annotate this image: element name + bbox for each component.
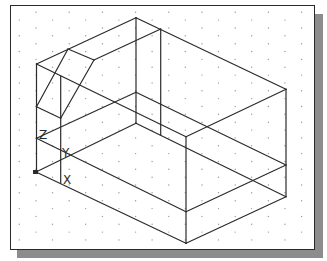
grid-dot [284, 82, 285, 83]
grid-dot [185, 82, 186, 83]
grid-dot [85, 129, 86, 130]
grid-dot [19, 82, 20, 83]
grid-dot [301, 12, 302, 13]
grid-dot [268, 59, 269, 60]
grid-dot [168, 184, 169, 185]
grid-dot [235, 106, 236, 107]
grid-dot [52, 19, 53, 20]
grid-dot [69, 12, 70, 13]
grid-dot [301, 27, 302, 28]
grid-dot [218, 67, 219, 68]
wireframe-edge [37, 138, 187, 211]
grid-dot [69, 137, 70, 138]
grid-dot [235, 27, 236, 28]
grid-dot [201, 12, 202, 13]
grid-dot [301, 153, 302, 154]
grid-dot [85, 145, 86, 146]
grid-dot [118, 208, 119, 209]
grid-dot [135, 12, 136, 13]
grid-dot [19, 35, 20, 36]
grid-dot [268, 153, 269, 154]
grid-dot [135, 216, 136, 217]
grid-dot [218, 161, 219, 162]
grid-dot [118, 114, 119, 115]
grid-dot [284, 192, 285, 193]
wireframe-edge [136, 92, 286, 165]
grid-dot [135, 169, 136, 170]
grid-dot [85, 82, 86, 83]
grid-dot [35, 184, 36, 185]
grid-dot [19, 192, 20, 193]
grid-dot [301, 216, 302, 217]
grid-dot [201, 43, 202, 44]
grid-dot [185, 98, 186, 99]
grid-dot [218, 177, 219, 178]
grid-dot [35, 231, 36, 232]
grid-dot [52, 67, 53, 68]
grid-dot [168, 27, 169, 28]
grid-dot [235, 137, 236, 138]
grid-dot [201, 106, 202, 107]
wireframe-edge [186, 89, 286, 136]
grid-dot [118, 239, 119, 240]
grid-dot [218, 192, 219, 193]
grid-dot [284, 208, 285, 209]
grid-dot [301, 231, 302, 232]
grid-dot [251, 161, 252, 162]
grid-dot [102, 184, 103, 185]
grid-dot [19, 224, 20, 225]
wireframe-edge [186, 197, 286, 244]
grid-dot [135, 231, 136, 232]
grid-dot [301, 106, 302, 107]
grid-dot [118, 19, 119, 20]
grid-dot [235, 231, 236, 232]
grid-dot [284, 224, 285, 225]
wireframe-edge [36, 172, 186, 243]
grid-dot [85, 192, 86, 193]
grid-dot [218, 82, 219, 83]
grid-dot [52, 239, 53, 240]
grid-dot [19, 114, 20, 115]
grid-dot [284, 177, 285, 178]
grid-dot [201, 153, 202, 154]
grid-dot [69, 169, 70, 170]
grid-dot [85, 35, 86, 36]
grid-dot [185, 114, 186, 115]
grid-dot [251, 239, 252, 240]
grid-dot [151, 208, 152, 209]
x-axis-label: X [63, 173, 71, 187]
grid-dot [284, 239, 285, 240]
grid-dot [251, 192, 252, 193]
grid-dot [102, 231, 103, 232]
grid-dot [118, 161, 119, 162]
grid-dot [251, 177, 252, 178]
grid-dot [201, 74, 202, 75]
grid-dot [35, 200, 36, 201]
wireframe-edge [37, 107, 61, 119]
grid-dot [19, 51, 20, 52]
grid-dot [102, 12, 103, 13]
grid-dot [301, 200, 302, 201]
grid-dot [151, 98, 152, 99]
grid-dot [268, 74, 269, 75]
grid-dot [168, 200, 169, 201]
grid-dot [19, 19, 20, 20]
grid-dot [201, 59, 202, 60]
grid-dot [251, 224, 252, 225]
grid-dot [19, 145, 20, 146]
grid-dot [85, 224, 86, 225]
grid-dot [301, 137, 302, 138]
grid-dot [235, 200, 236, 201]
grid-dot [168, 43, 169, 44]
grid-dot [268, 122, 269, 123]
grid-dot [151, 161, 152, 162]
grid-dot [151, 192, 152, 193]
grid-dot [52, 208, 53, 209]
grid-dot [251, 19, 252, 20]
grid-dot [235, 216, 236, 217]
grid-dot [218, 145, 219, 146]
grid-dot [251, 129, 252, 130]
grid-dot [201, 184, 202, 185]
grid-dot [102, 27, 103, 28]
grid-dot [251, 35, 252, 36]
